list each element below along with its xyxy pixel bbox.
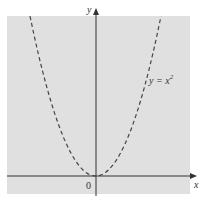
- plot-svg: y x 0 y = x2: [0, 0, 202, 206]
- y-axis-label: y: [86, 4, 92, 15]
- plot-area: [7, 16, 190, 194]
- origin-label: 0: [86, 180, 91, 191]
- x-axis-label: x: [193, 179, 199, 190]
- y-axis-arrow-icon: [93, 8, 99, 15]
- curve-label-exponent: 2: [170, 73, 174, 81]
- parabola-figure: y x 0 y = x2: [0, 0, 202, 206]
- curve-label-base: y = x: [148, 75, 170, 86]
